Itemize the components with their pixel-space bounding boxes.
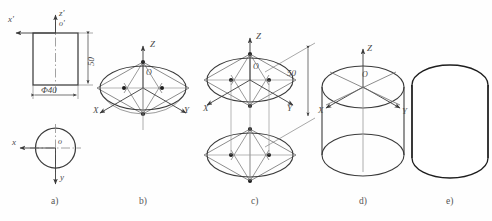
- ellipse-arc-overshoot-b-right: [143, 98, 182, 114]
- step-caption-b: b): [139, 196, 147, 206]
- step-caption-c: c): [251, 196, 258, 206]
- label-axis-x-prime: x': [8, 14, 14, 24]
- cylinder-body-e: [412, 85, 488, 178]
- arc-center-dot-b-right: [160, 86, 164, 90]
- view-e-finished-cylinder: [412, 65, 488, 178]
- label-origin-o-c: O: [253, 62, 259, 71]
- step-caption-e: e): [446, 196, 453, 206]
- step-caption-d: d): [359, 196, 367, 206]
- label-origin-o-prime: o': [59, 19, 65, 28]
- dimension-height-label: 50: [86, 57, 96, 66]
- view-d-cylinder-with-axes: [322, 49, 404, 176]
- dim-ext-c-bottom: [265, 118, 315, 147]
- view-c-two-ellipses: [204, 38, 315, 183]
- label-axis-z-c: Z: [256, 31, 261, 41]
- label-axis-x: x: [12, 137, 16, 147]
- dimension-height-label-c: 50: [287, 68, 296, 78]
- step-caption-a: a): [51, 196, 58, 206]
- label-axis-x-d: X: [318, 105, 324, 115]
- label-origin-o-d: O: [362, 70, 368, 79]
- label-origin-o: o: [58, 137, 62, 146]
- label-axis-y-b: Y: [184, 105, 189, 115]
- label-axis-z-b: Z: [150, 39, 155, 49]
- label-axis-y-d: Y: [402, 106, 407, 116]
- view-b-ellipse-construction: [97, 46, 189, 130]
- drawing-canvas: [0, 0, 492, 221]
- dimension-diameter-label: Φ40: [41, 85, 57, 95]
- label-axis-x-b: X: [93, 105, 99, 115]
- label-axis-z-d: Z: [367, 43, 372, 53]
- arc-center-dot-b-left: [122, 86, 126, 90]
- label-axis-y: y: [60, 172, 64, 182]
- ellipse-arc-overshoot-b-left: [104, 98, 143, 114]
- view-a-orthographic: [16, 15, 93, 184]
- label-axis-y-c: Y: [287, 103, 292, 113]
- label-axis-z-prime: z': [59, 8, 64, 18]
- technical-drawing-figure: x' z' o' x o y Φ40 50 Z X Y O Z X Y O 50…: [0, 0, 492, 221]
- label-axis-x-c: X: [203, 103, 209, 113]
- label-origin-o-b: O: [146, 68, 152, 77]
